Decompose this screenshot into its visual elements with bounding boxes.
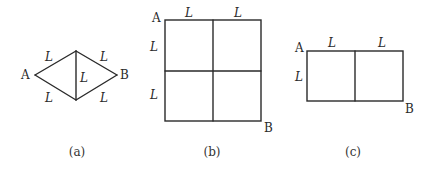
edge-label-a-lower-right: L [99, 91, 108, 105]
edge-label-b-top-left: L [184, 6, 193, 20]
figure-b: A B L L L L (b) [149, 6, 273, 159]
edge-label-b-top-right: L [233, 6, 242, 20]
caption-c: (c) [345, 145, 361, 159]
edge-label-b-left-upper: L [149, 40, 158, 54]
vertex-label-c-end: B [405, 102, 414, 116]
vertex-label-a-end: B [120, 68, 129, 82]
caption-b: (b) [203, 145, 220, 159]
edge-label-c-top-left: L [327, 36, 336, 50]
edge-label-a-upper-left: L [44, 50, 53, 64]
edge-label-a-middle: L [79, 71, 88, 85]
edge-label-c-left: L [294, 70, 303, 84]
caption-a: (a) [69, 145, 86, 159]
figure-c: A B L L L (c) [294, 36, 414, 159]
vertex-label-c-start: A [294, 41, 304, 55]
edge-label-b-left-lower: L [149, 88, 158, 102]
vertex-label-b-start: A [151, 11, 161, 25]
vertex-label-b-end: B [264, 121, 273, 135]
edge-label-c-top-right: L [377, 36, 386, 50]
resistor-network-figures: A B L L L L L (a) A B L L L L (b) A B L … [0, 0, 430, 169]
vertex-label-a-start: A [20, 68, 30, 82]
edge-label-a-lower-left: L [44, 91, 53, 105]
figure-a: A B L L L L L (a) [20, 50, 129, 159]
edge-a-upper-left [35, 51, 76, 75]
edge-label-a-upper-right: L [99, 50, 108, 64]
edge-a-lower-left [35, 75, 76, 100]
